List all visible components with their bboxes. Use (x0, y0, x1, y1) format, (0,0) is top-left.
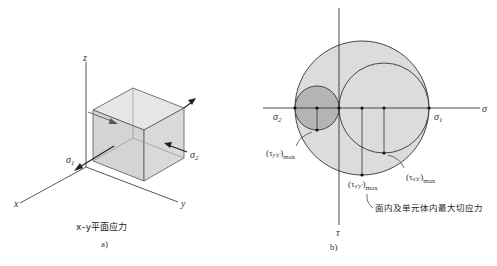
tau-yz-max-label: (τy′z′)max (266, 148, 296, 161)
figure-a: z x y σ1 σ2 x–y平面应力 a) (13, 52, 199, 249)
figure-b-panel-label: b) (330, 242, 338, 252)
sigma2-point-label: σ2 (273, 111, 282, 124)
figure-a-panel-label: a) (101, 239, 108, 249)
x-axis (20, 167, 86, 203)
tau-xy-max-label: (τx′y′)max (348, 179, 378, 192)
sigma2-label: σ2 (190, 149, 199, 162)
sigma-axis-label: σ (482, 103, 488, 114)
y-axis-label: y (180, 198, 186, 209)
figure-b: σ τ σ2 σ1 (τy′z′)max (τx′z′)max (τx′y′)m… (263, 8, 488, 252)
leader-annotation (367, 194, 373, 208)
tau-xz-max-label: (τx′z′)max (406, 172, 436, 185)
max-shear-annotation: 面内及单元体内最大切应力 (375, 203, 483, 213)
sigma1-label: σ1 (66, 154, 74, 167)
tau-axis-label: τ (336, 227, 340, 238)
z-axis-label: z (82, 52, 87, 63)
figure-a-caption: x–y平面应力 (76, 221, 127, 232)
x-axis-label: x (13, 198, 19, 209)
sigma1-point-label: σ1 (434, 111, 442, 124)
figure-canvas: z x y σ1 σ2 x–y平面应力 a) σ τ (0, 0, 497, 266)
